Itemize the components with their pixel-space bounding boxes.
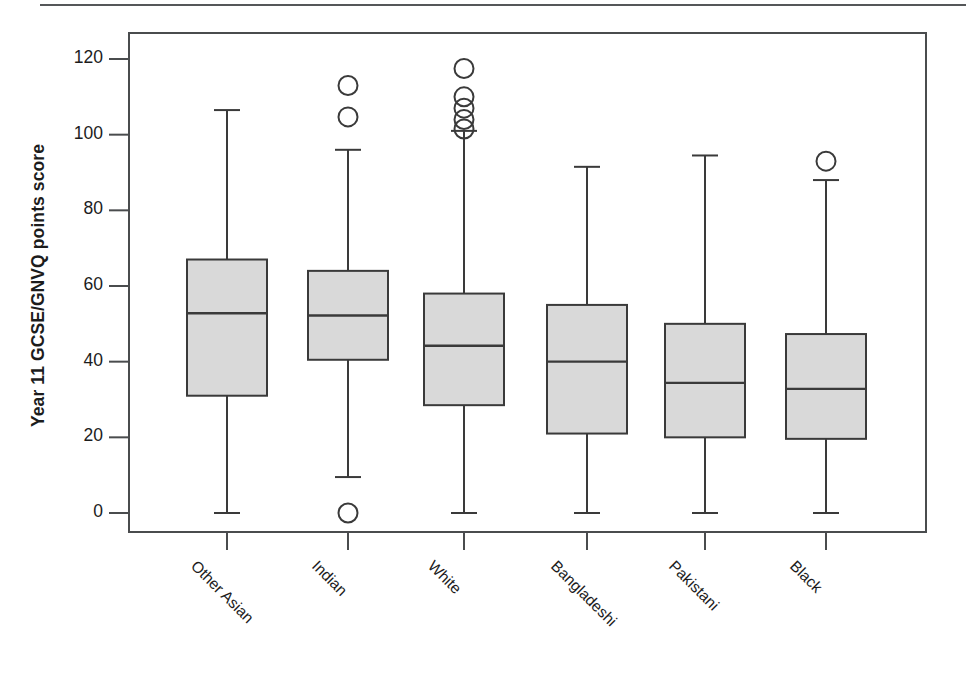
box-plot-other-asian <box>187 110 267 513</box>
y-tick-label: 60 <box>57 274 103 295</box>
outlier-marker <box>339 107 358 126</box>
y-tick-label: 80 <box>57 198 103 219</box>
outlier-marker <box>817 152 836 171</box>
iqr-box <box>786 334 866 439</box>
y-tick-label: 120 <box>57 47 103 68</box>
outlier-marker <box>455 99 474 118</box>
iqr-box <box>665 324 745 438</box>
outlier-marker <box>455 59 474 78</box>
boxplot-figure: Year 11 GCSE/GNVQ points score 020406080… <box>0 0 966 682</box>
y-axis-title: Year 11 GCSE/GNVQ points score <box>28 71 49 501</box>
y-tick-label: 0 <box>57 501 103 522</box>
iqr-box <box>547 305 627 434</box>
page-top-rule <box>40 4 966 6</box>
outlier-marker <box>339 504 358 523</box>
iqr-box <box>424 294 504 406</box>
box-series <box>187 59 866 523</box>
box-plot-indian <box>308 76 388 523</box>
y-tick-label: 40 <box>57 350 103 371</box>
box-plot-white <box>424 59 504 513</box>
iqr-box <box>187 260 267 396</box>
outlier-marker <box>339 76 358 95</box>
y-tick-label: 20 <box>57 425 103 446</box>
box-plot-pakistani <box>665 155 745 513</box>
outlier-marker <box>455 87 474 106</box>
box-plot-black <box>786 152 866 513</box>
box-plot-bangladeshi <box>547 167 627 513</box>
y-tick-label: 100 <box>57 123 103 144</box>
